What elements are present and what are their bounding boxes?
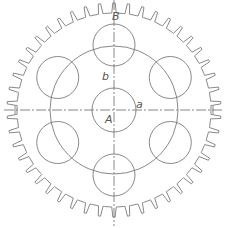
label-a: a: [136, 98, 143, 111]
hole: [37, 122, 79, 164]
label-b: b: [102, 70, 109, 83]
hole: [149, 122, 191, 164]
hole: [37, 57, 79, 99]
label-A: A: [104, 113, 113, 126]
gear-drawing: B b a A: [0, 0, 226, 228]
label-B: B: [112, 10, 120, 23]
hole: [149, 57, 191, 99]
